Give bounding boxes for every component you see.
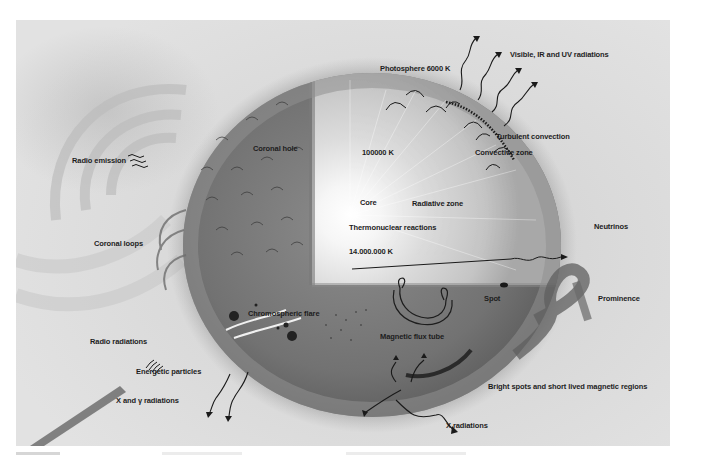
label-neutrinos: Neutrinos [594,223,628,231]
label-convective-zone: Convective zone [475,149,533,157]
label-coronal-loops: Coronal loops [94,240,143,248]
label-visible-ir-uv: Visible, IR and UV radiations [510,51,609,59]
label-radio-emission: Radio emission [72,157,126,165]
caption-mark [346,452,466,455]
sun-structure-illustration: Radio emission Coronal hole Coronal loop… [16,20,670,446]
label-chromospheric-flare: Chromospheric flare [248,310,319,318]
radio-wave-swirl [55,89,186,220]
label-magnetic-flux-tube: Magnetic flux tube [380,333,444,341]
label-x-radiations: X radiations [446,422,488,430]
label-prominence: Prominence [598,295,640,303]
label-thermonuclear-reactions: Thermonuclear reactions [349,224,436,232]
label-core-temperature: 14.000.000 K [349,248,393,256]
caption-strip [16,452,670,460]
label-radiative-zone: Radiative zone [412,200,463,208]
label-x-gamma-radiations: X and γ radiations [116,397,179,405]
label-temp-100000: 100000 K [362,149,394,157]
label-photosphere: Photosphere 6000 K [380,65,450,73]
caption-mark [162,452,242,455]
label-spot: Spot [484,295,500,303]
label-turbulent-convection: Turbulent convection [496,133,570,141]
label-energetic-particles: Energetic particles [136,368,201,376]
label-bright-spots: Bright spots and short lived magnetic re… [488,383,647,391]
label-radio-radiations: Radio radiations [90,338,147,346]
sunspot [500,283,508,288]
caption-mark [16,452,60,455]
label-coronal-hole: Coronal hole [253,145,298,153]
label-core: Core [360,199,377,207]
